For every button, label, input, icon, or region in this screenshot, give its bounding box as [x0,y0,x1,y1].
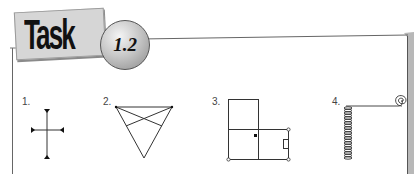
triangle-figure-icon [110,100,180,165]
item-3-label: 3. [212,96,220,107]
grid-figure-icon [222,95,302,170]
task-number-badge: 1.2 [100,20,150,70]
task-title: Task [24,14,74,56]
task-number: 1.2 [101,21,149,69]
spring-spiral-icon [340,95,410,170]
cross-arrows-icon [20,100,80,170]
